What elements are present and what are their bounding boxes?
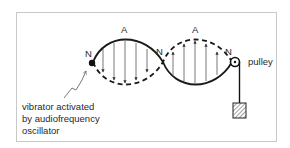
displacement-arrows-right (173, 41, 217, 83)
pulley-label: pulley (248, 57, 273, 67)
weight-icon (233, 103, 246, 118)
vibrator-pointer-arrow (64, 71, 86, 98)
node-label-middle: N (156, 47, 163, 57)
antinode-label-right: A (192, 25, 198, 35)
vibrator-dot (89, 60, 95, 66)
pulley-icon (231, 58, 240, 67)
caption-line-3: oscillator (22, 125, 100, 137)
antinode-label-left: A (121, 25, 127, 35)
node-label-left: N (85, 49, 92, 59)
caption-line-1: vibrator activated (22, 101, 100, 113)
displacement-arrows-left (103, 41, 147, 83)
node-label-right: N (225, 47, 232, 57)
vibrator-caption: vibrator activated by audiofrequency osc… (22, 101, 100, 137)
caption-line-2: by audiofrequency (22, 113, 100, 125)
